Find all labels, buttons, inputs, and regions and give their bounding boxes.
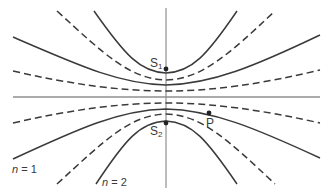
point-p-dot [207,111,212,116]
source-s1-dot [164,67,169,72]
label-s1-sub: 1 [158,62,162,71]
label-s1: S1 [150,57,162,73]
label-n2: n = 2 [102,176,127,188]
label-n1-rest: = 1 [18,163,37,175]
diagram-canvas [0,0,329,193]
label-s2-main: S [150,124,158,138]
label-p: P [206,117,214,129]
label-s2: S2 [150,125,162,141]
label-n2-rest: = 2 [108,176,127,188]
source-s2-dot [164,121,169,126]
label-s2-sub: 2 [158,130,162,139]
label-s1-main: S [150,56,158,70]
label-n1: n = 1 [12,163,37,175]
interference-diagram: S1 S2 P n = 1 n = 2 [0,0,329,193]
label-p-text: P [206,116,214,130]
